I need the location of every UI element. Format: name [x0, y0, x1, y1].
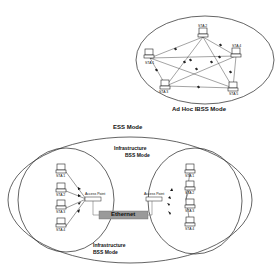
adhoc-sta-label: STA 1: [145, 61, 154, 65]
bss-right-arrow-icons: [167, 188, 173, 215]
adhoc-sta-label: STA 3: [159, 90, 168, 94]
bss-right-sta-label: STA 3: [185, 209, 194, 213]
bss-left-title-line2: BSS Mode: [93, 249, 118, 255]
bss-left-sta-label: STA 2: [56, 193, 65, 197]
adhoc-sta-label: STA 4: [232, 44, 241, 48]
bss-right-title-line2: BSS Mode: [125, 152, 150, 158]
access-point-left-label: Access Point: [85, 192, 105, 196]
adhoc-ibss-title: Ad Hoc IBSS Mode: [172, 106, 226, 112]
bss-left-links: [66, 172, 86, 226]
bss-left-title-line1: Infrastructure: [93, 242, 126, 248]
adhoc-sta-label: STA 5: [229, 92, 238, 96]
bss-right-sta-label: STA 1: [185, 174, 194, 178]
ess-title: ESS Mode: [113, 124, 142, 130]
bss-right-sta-label: STA 4: [185, 227, 194, 231]
bss-right-title-line1: Infrastructure: [114, 145, 147, 151]
network-diagram-canvas: [0, 0, 279, 271]
adhoc-sta-label: STA 2: [198, 24, 207, 28]
bss-left-sta-label: STA 3: [56, 210, 65, 214]
access-point-right-label: Access Point: [144, 192, 164, 196]
ethernet-label: Ethernet: [111, 211, 135, 217]
access-point-right-device: [146, 197, 162, 201]
bss-left-sta-label: STA 1: [56, 174, 65, 178]
access-point-left-device: [85, 197, 101, 201]
adhoc-computer-icons: [144, 28, 241, 91]
bss-left-sta-label: STA 4: [56, 228, 65, 232]
bss-right-sta-label: STA 2: [185, 191, 194, 195]
bss-right-links: [186, 172, 190, 224]
bss-left-arrow-icons: [77, 187, 81, 213]
